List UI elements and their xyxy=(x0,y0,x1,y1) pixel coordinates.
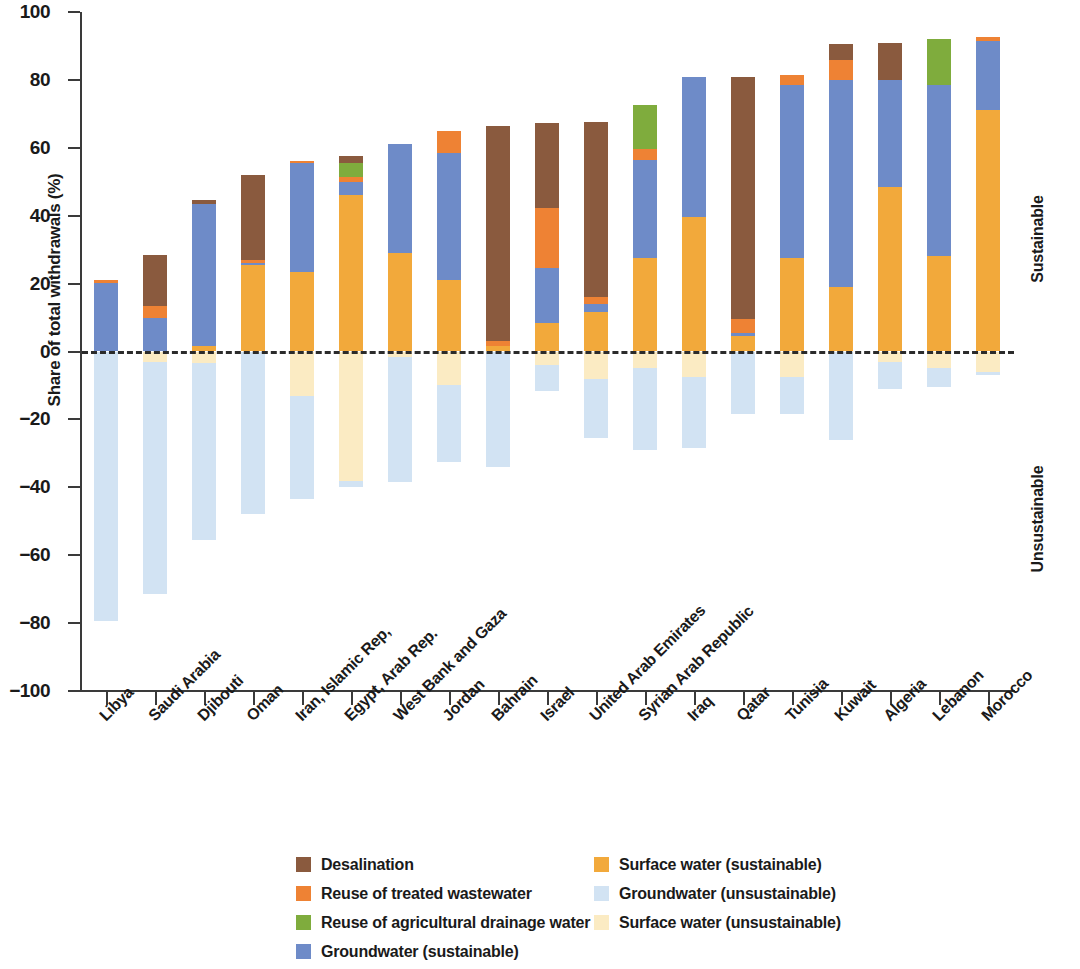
y-tick-label: −80 xyxy=(19,612,50,634)
bar-group[interactable] xyxy=(143,0,167,691)
bar-segment-groundwater-sustainable xyxy=(437,153,461,280)
bar-group[interactable] xyxy=(829,0,853,691)
bar-segment-groundwater-unsustainable xyxy=(339,481,363,488)
bar-segment-groundwater-unsustainable xyxy=(143,362,167,595)
y-tick-label: 20 xyxy=(30,273,50,295)
legend-item[interactable]: Surface water (sustainable) xyxy=(594,850,841,879)
bar-segment-groundwater-unsustainable xyxy=(192,363,216,540)
bar-segment-surface-sustainable xyxy=(976,110,1000,351)
bar-segment-reuse-wastewater xyxy=(143,306,167,318)
bar-segment-reuse-drainage xyxy=(339,163,363,177)
bar-segment-groundwater-unsustainable xyxy=(486,352,510,467)
bar-group[interactable] xyxy=(780,0,804,691)
legend-item[interactable]: Reuse of treated wastewater xyxy=(296,879,590,908)
bar-segment-groundwater-unsustainable xyxy=(682,377,706,448)
bar-segment-groundwater-sustainable xyxy=(927,85,951,256)
bar-group[interactable] xyxy=(192,0,216,691)
y-axis-tick-labels: 100806040200−20−40−60−80−100 xyxy=(0,0,56,710)
legend-item[interactable]: Groundwater (unsustainable) xyxy=(594,879,841,908)
bar-segment-surface-unsustainable xyxy=(976,352,1000,372)
zero-reference-line xyxy=(82,351,1014,354)
swatch-groundwater-sustainable-icon xyxy=(296,944,311,959)
legend-item[interactable]: Desalination xyxy=(296,850,590,879)
swatch-groundwater-unsustainable-icon xyxy=(594,886,609,901)
bar-segment-surface-unsustainable xyxy=(633,352,657,369)
bar-group[interactable] xyxy=(486,0,510,691)
legend-label: Groundwater (unsustainable) xyxy=(619,885,836,903)
bar-segment-reuse-wastewater xyxy=(290,161,314,163)
swatch-surface-sustainable-icon xyxy=(594,857,609,872)
y-tick-mark xyxy=(68,283,80,285)
bar-segment-surface-unsustainable xyxy=(584,352,608,379)
bar-segment-reuse-wastewater xyxy=(584,297,608,304)
bar-segment-reuse-drainage xyxy=(633,105,657,149)
bar-group[interactable] xyxy=(290,0,314,691)
bar-segment-desalination xyxy=(878,43,902,80)
bar-segment-surface-sustainable xyxy=(339,195,363,351)
bar-segment-desalination xyxy=(829,44,853,59)
legend-label: Reuse of treated wastewater xyxy=(321,885,532,903)
bar-segment-groundwater-sustainable xyxy=(829,80,853,287)
bar-group[interactable] xyxy=(682,0,706,691)
bar-group[interactable] xyxy=(388,0,412,691)
y-tick-label: 0 xyxy=(40,341,50,363)
bar-segment-surface-sustainable xyxy=(437,280,461,351)
bar-group[interactable] xyxy=(731,0,755,691)
legend-item[interactable]: Reuse of agricultural drainage water xyxy=(296,908,590,937)
legend-label: Desalination xyxy=(321,856,414,874)
swatch-desalination-icon xyxy=(296,857,311,872)
bar-segment-surface-unsustainable xyxy=(682,352,706,377)
bar-segment-groundwater-unsustainable xyxy=(780,377,804,414)
side-label-sustainable: Sustainable xyxy=(1029,179,1047,299)
y-tick-label: −40 xyxy=(19,476,50,498)
bar-group[interactable] xyxy=(927,0,951,691)
y-tick-label: 80 xyxy=(30,69,50,91)
bar-segment-groundwater-unsustainable xyxy=(535,365,559,390)
bar-segment-desalination xyxy=(339,156,363,163)
y-tick-mark xyxy=(68,11,80,13)
y-tick-mark xyxy=(68,486,80,488)
side-label-unsustainable: Unsustainable xyxy=(1029,449,1047,589)
legend-label: Surface water (sustainable) xyxy=(619,856,822,874)
bar-segment-groundwater-unsustainable xyxy=(94,352,118,622)
bar-segment-surface-sustainable xyxy=(682,217,706,351)
bar-group[interactable] xyxy=(94,0,118,691)
bar-segment-groundwater-sustainable xyxy=(780,85,804,258)
bar-segment-surface-unsustainable xyxy=(927,352,951,369)
bar-segment-groundwater-unsustainable xyxy=(437,385,461,461)
bar-segment-groundwater-sustainable xyxy=(241,263,265,265)
bar-segment-surface-sustainable xyxy=(927,256,951,351)
bar-segment-surface-sustainable xyxy=(780,258,804,351)
bar-segment-desalination xyxy=(486,126,510,342)
bar-group[interactable] xyxy=(535,0,559,691)
x-axis-label-iraq: Iraq xyxy=(684,692,717,725)
bar-segment-surface-sustainable xyxy=(878,187,902,352)
bar-segment-surface-sustainable xyxy=(731,336,755,351)
y-tick-mark xyxy=(68,622,80,624)
bar-segment-groundwater-sustainable xyxy=(682,77,706,218)
bar-group[interactable] xyxy=(241,0,265,691)
y-tick-label: −100 xyxy=(9,680,50,702)
bar-segment-reuse-wastewater xyxy=(486,341,510,346)
y-tick-mark xyxy=(68,690,80,692)
bar-group[interactable] xyxy=(878,0,902,691)
legend-item[interactable]: Surface water (unsustainable) xyxy=(594,908,841,937)
bar-segment-groundwater-unsustainable xyxy=(290,396,314,500)
legend-label: Surface water (unsustainable) xyxy=(619,914,841,932)
bar-segment-groundwater-unsustainable xyxy=(878,362,902,389)
bar-group[interactable] xyxy=(976,0,1000,691)
bar-segment-groundwater-unsustainable xyxy=(731,352,755,415)
bar-segment-groundwater-unsustainable xyxy=(829,352,853,440)
bar-segment-reuse-wastewater xyxy=(437,131,461,153)
bar-group[interactable] xyxy=(584,0,608,691)
bar-group[interactable] xyxy=(339,0,363,691)
bar-group[interactable] xyxy=(437,0,461,691)
bar-segment-surface-unsustainable xyxy=(437,352,461,386)
legend-column-right: Surface water (sustainable)Groundwater (… xyxy=(594,850,841,937)
bar-segment-reuse-wastewater xyxy=(94,280,118,282)
bar-group[interactable] xyxy=(633,0,657,691)
bar-segment-groundwater-unsustainable xyxy=(584,379,608,438)
legend-item[interactable]: Groundwater (sustainable) xyxy=(296,937,590,966)
bar-segment-groundwater-sustainable xyxy=(633,160,657,258)
bar-segment-groundwater-unsustainable xyxy=(633,368,657,449)
